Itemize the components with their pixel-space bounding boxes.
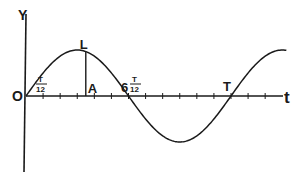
- fraction-denominator: 12: [36, 85, 45, 94]
- point-a-label: A: [88, 81, 98, 96]
- y-axis: [24, 14, 26, 172]
- t-axis-label: t: [284, 88, 290, 107]
- half-period-coefficient: 6: [121, 80, 128, 95]
- fraction-numerator: T: [132, 75, 137, 84]
- origin-label: O: [12, 88, 23, 104]
- fraction-denominator: 12: [130, 85, 139, 94]
- annotation-half-period: 6 T 12: [121, 75, 141, 95]
- y-axis-label: Y: [18, 7, 28, 23]
- point-l-label: L: [80, 37, 88, 52]
- annotation-t-over-12: T 12: [36, 75, 47, 94]
- fraction-numerator: T: [38, 75, 43, 84]
- period-label: T: [223, 79, 231, 94]
- wave-diagram: Y t O L A T 12 6 T 12 T: [0, 0, 298, 180]
